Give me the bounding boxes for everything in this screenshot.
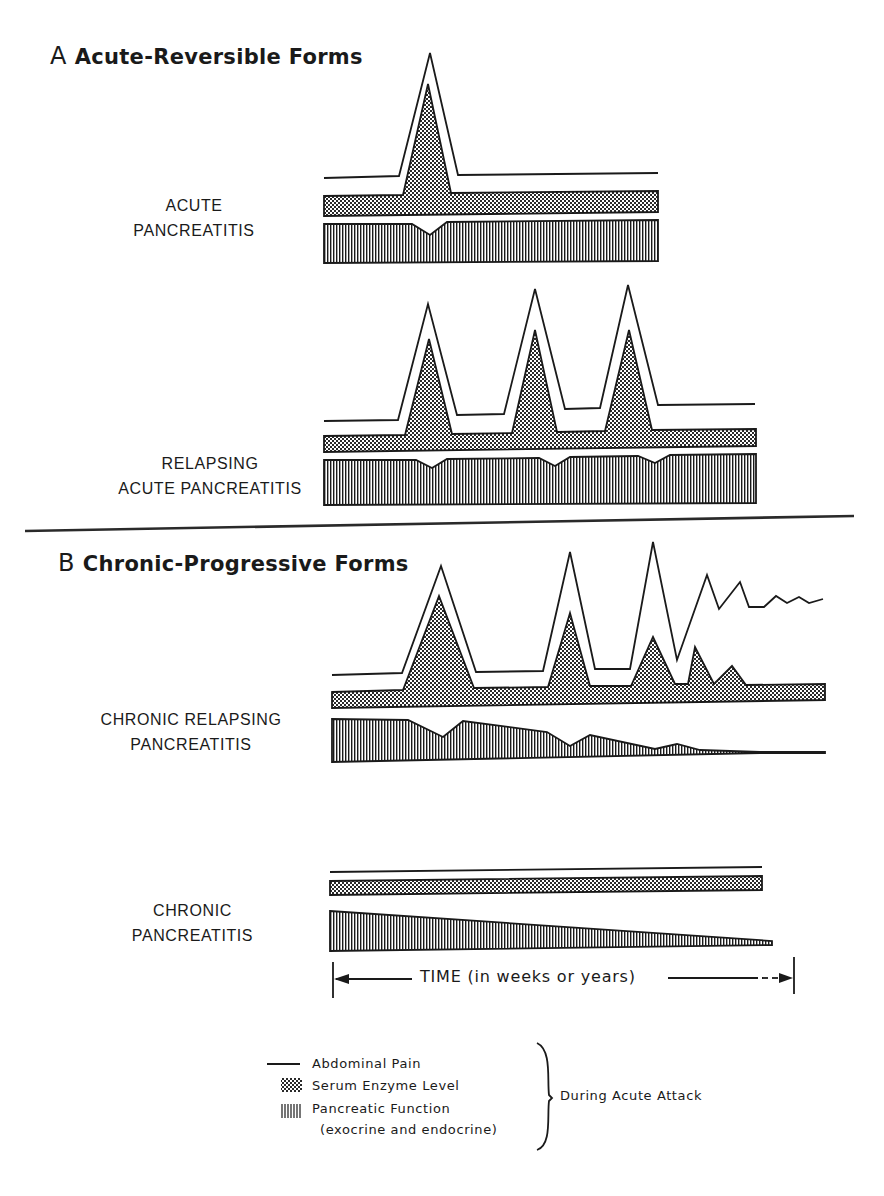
pancreatic-function-area — [332, 719, 825, 762]
section-divider — [25, 516, 854, 531]
diagram-canvas — [0, 0, 884, 1196]
row-label-line2: PANCREATITIS — [110, 218, 278, 243]
legend-hatch-icon — [282, 1104, 300, 1118]
legend-stipple-icon — [281, 1078, 302, 1092]
row-label-line1: CHRONIC RELAPSING — [80, 707, 302, 732]
section-b-title: Chronic-Progressive Forms — [83, 552, 409, 576]
row-label-relapsing-acute: RELAPSING ACUTE PANCREATITIS — [95, 451, 325, 501]
row-label-line1: RELAPSING — [95, 451, 325, 476]
time-axis-label: TIME (in weeks or years) — [412, 967, 644, 986]
row-label-line1: CHRONIC — [115, 898, 270, 923]
section-a-letter: A — [50, 42, 67, 70]
abdominal-pain-line — [324, 53, 658, 178]
chronic-plot — [330, 867, 772, 951]
serum-enzyme-area — [324, 84, 658, 216]
acute-pancreatitis-plot — [324, 53, 658, 263]
serum-enzyme-area — [332, 596, 825, 708]
row-label-chronic: CHRONIC PANCREATITIS — [115, 898, 270, 948]
serum-enzyme-area — [330, 876, 762, 895]
pancreatic-function-area — [324, 220, 658, 263]
row-label-line2: ACUTE PANCREATITIS — [95, 476, 325, 501]
abdominal-pain-line — [330, 867, 762, 872]
row-label-chronic-relapsing: CHRONIC RELAPSING PANCREATITIS — [80, 707, 302, 757]
arrow-right-icon — [779, 973, 793, 983]
section-b-letter: B — [58, 549, 75, 577]
arrow-left-icon — [334, 974, 349, 984]
row-label-line1: ACUTE — [110, 193, 278, 218]
section-a-title: Acute-Reversible Forms — [75, 45, 363, 69]
legend-label-serum-enzyme: Serum Enzyme Level — [312, 1078, 460, 1093]
row-label-acute: ACUTE PANCREATITIS — [110, 193, 278, 243]
section-a-heading: AAcute-Reversible Forms — [50, 42, 363, 70]
serum-enzyme-area — [324, 330, 756, 452]
legend-sublabel: (exocrine and endocrine) — [320, 1122, 497, 1137]
legend-label-abdominal-pain: Abdominal Pain — [312, 1056, 421, 1071]
right-brace-icon — [537, 1043, 552, 1150]
row-label-line2: PANCREATITIS — [80, 732, 302, 757]
relapsing-acute-plot — [324, 285, 756, 505]
legend-label-pancreatic-function: Pancreatic Function — [312, 1101, 450, 1116]
pancreatic-function-area — [330, 911, 772, 951]
section-b-heading: BChronic-Progressive Forms — [58, 549, 409, 577]
pancreatic-function-area — [324, 454, 756, 505]
legend-bracket-label: During Acute Attack — [560, 1088, 702, 1103]
row-label-line2: PANCREATITIS — [115, 923, 270, 948]
